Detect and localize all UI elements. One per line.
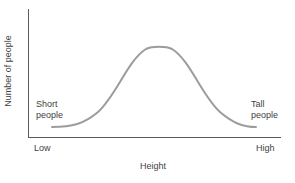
- short-people-line1: Short: [36, 99, 63, 110]
- short-people-label: Short people: [36, 99, 63, 121]
- x-tick-low: Low: [34, 143, 51, 154]
- tall-people-line2: people: [251, 110, 278, 121]
- x-axis-label: Height: [140, 161, 166, 172]
- tall-people-line1: Tall: [251, 99, 278, 110]
- bell-curve: [52, 47, 256, 127]
- y-axis-label: Number of people: [3, 31, 13, 111]
- bell-curve-chart: Number of people Short people Tall peopl…: [0, 0, 295, 183]
- tall-people-label: Tall people: [251, 99, 278, 121]
- short-people-line2: people: [36, 110, 63, 121]
- chart-canvas: [0, 0, 295, 183]
- x-tick-high: High: [256, 143, 275, 154]
